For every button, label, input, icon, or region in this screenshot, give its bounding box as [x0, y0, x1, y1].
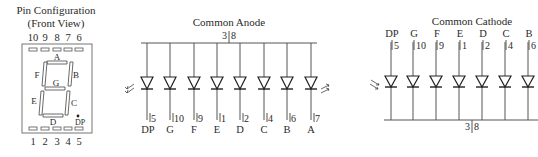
pin-pad	[53, 48, 61, 51]
pin-pad	[75, 48, 83, 51]
led-branch	[476, 42, 488, 120]
common-cathode-title: Common Cathode	[432, 15, 512, 27]
segment-label-f: F	[34, 70, 39, 80]
cathode-segment-label: DP	[385, 28, 399, 39]
led-branch	[281, 43, 293, 120]
cathode-pin-number: 2	[485, 40, 490, 51]
anode-segment-label: C	[260, 124, 267, 135]
anode-pin-number: 7	[315, 113, 320, 124]
segment-label-a: A	[54, 52, 61, 62]
common-anode-title: Common Anode	[193, 16, 266, 28]
led-diode-icon	[164, 77, 176, 89]
top-pin-label: 7	[65, 32, 70, 43]
led-diode-icon	[430, 76, 442, 87]
cathode-segment-label: G	[410, 28, 418, 39]
light-emission-icon	[370, 80, 379, 89]
light-emission-icon	[125, 84, 134, 93]
led-diode-icon	[407, 76, 419, 87]
cathode-pin-number: 9	[439, 40, 444, 51]
led-diode-icon	[234, 77, 246, 89]
top-pin-label: 10	[28, 32, 39, 43]
bottom-pin-label: 4	[65, 136, 71, 147]
anode-segment-label: F	[191, 124, 197, 135]
led-diode-icon	[499, 76, 511, 87]
common-pin-left: 3	[222, 30, 227, 41]
anode-segment-label: B	[283, 124, 290, 135]
anode-pin-number: 4	[268, 113, 273, 124]
led-branch	[499, 42, 511, 120]
led-diode-icon	[385, 76, 397, 87]
cathode-segment-label: E	[457, 28, 463, 39]
led-diode-icon	[281, 77, 293, 89]
segment-label-e: E	[31, 96, 37, 106]
common-pin-right: 8	[231, 30, 236, 41]
bottom-pin-label: 1	[30, 136, 35, 147]
led-branch	[305, 43, 317, 120]
pin-pad	[64, 127, 72, 130]
pin-pad	[41, 48, 49, 51]
common-anode-circuit: Common Anode 3 8	[125, 16, 329, 135]
pin-pad	[53, 127, 61, 130]
led-branch	[407, 42, 419, 120]
led-branch	[385, 42, 397, 120]
led-diode-icon	[211, 77, 223, 89]
anode-pin-number: 10	[174, 113, 184, 124]
top-pin-label: 6	[76, 32, 81, 43]
pin-pad	[29, 48, 37, 51]
cathode-pin-number: 10	[416, 40, 426, 51]
anode-pin-number: 2	[244, 113, 249, 124]
led-diode-icon	[476, 76, 488, 87]
segment-dp	[77, 115, 80, 118]
bottom-pin-label: 5	[76, 136, 81, 147]
top-pin-label: 8	[54, 32, 59, 43]
common-cathode-circuit: Common Cathode DP G F E D C B 5 10 9 1 2…	[370, 15, 538, 133]
anode-segment-label: D	[236, 124, 244, 135]
led-branch	[188, 43, 200, 120]
seven-segment-diagram: Pin Configuration (Front View) 10 9 8 7 …	[0, 0, 538, 157]
light-emission-icon	[321, 84, 329, 93]
segment-label-d: D	[50, 117, 57, 127]
cathode-pin-number: 5	[394, 40, 399, 51]
pin-pad	[64, 48, 72, 51]
pin-configuration: Pin Configuration (Front View) 10 9 8 7 …	[16, 4, 96, 147]
led-branch	[141, 43, 153, 120]
anode-pin-number: 9	[198, 113, 203, 124]
led-diode-icon	[141, 77, 153, 89]
led-branch	[234, 43, 246, 120]
pin-config-title: Pin Configuration	[16, 4, 96, 16]
pin-pad	[41, 127, 49, 130]
common-pin-right: 8	[474, 121, 479, 132]
led-diode-icon	[305, 77, 317, 89]
cathode-pin-number: 4	[508, 40, 513, 51]
anode-segment-label: G	[166, 124, 174, 135]
bottom-pin-label: 3	[54, 136, 59, 147]
anode-segment-label: A	[307, 124, 315, 135]
segment-label-g: G	[53, 78, 60, 88]
cathode-segment-label: B	[525, 28, 532, 39]
pin-config-subtitle: (Front View)	[28, 17, 85, 30]
led-diode-icon	[258, 77, 270, 89]
cathode-segment-label: F	[434, 28, 440, 39]
pin-pad	[75, 127, 83, 130]
anode-segment-label: DP	[141, 124, 155, 135]
anode-pin-number: 6	[291, 113, 296, 124]
anode-pin-number: 1	[221, 113, 226, 124]
led-branch	[430, 42, 442, 120]
segment-label-dp: DP	[75, 118, 86, 127]
segment-label-c: C	[71, 98, 77, 108]
led-diode-icon	[188, 77, 200, 89]
common-pin-left: 3	[465, 121, 470, 132]
led-branch	[211, 43, 223, 120]
pin-pad	[29, 127, 37, 130]
top-pin-label: 9	[42, 32, 47, 43]
anode-segment-label: E	[214, 124, 220, 135]
led-branch	[258, 43, 270, 120]
anode-pin-number: 5	[151, 113, 156, 124]
led-diode-icon	[453, 76, 465, 87]
cathode-segment-label: D	[479, 28, 487, 39]
cathode-pin-number: 1	[462, 40, 467, 51]
bottom-pin-label: 2	[42, 136, 47, 147]
cathode-segment-label: C	[502, 28, 509, 39]
led-diode-icon	[522, 76, 534, 87]
led-branch	[522, 42, 534, 120]
